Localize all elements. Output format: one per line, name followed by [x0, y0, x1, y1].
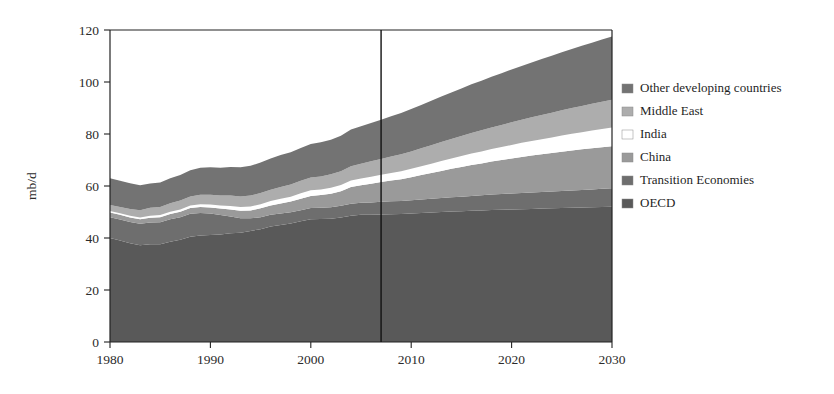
legend-label: Middle East	[640, 103, 704, 118]
y-tick-label: 0	[92, 335, 99, 350]
x-tick-label: 1990	[197, 352, 224, 367]
x-tick-label: 2000	[297, 352, 324, 367]
y-tick-label: 20	[86, 283, 100, 298]
x-tick-label: 2030	[599, 352, 626, 367]
y-axis-title: mb/d	[24, 172, 39, 200]
x-tick-label: 2020	[498, 352, 525, 367]
legend-item-transition-economies: Transition Economies	[622, 172, 754, 187]
legend-label: OECD	[640, 195, 675, 210]
y-axis-title-group: mb/d	[24, 172, 39, 200]
legend-swatch	[622, 84, 633, 93]
x-tick-label: 2010	[398, 352, 425, 367]
legend-swatch	[622, 153, 633, 162]
y-tick-label: 120	[79, 23, 100, 38]
legend-swatch	[622, 176, 633, 185]
legend-swatch	[622, 130, 633, 139]
legend-swatch	[622, 107, 633, 116]
y-tick-label: 80	[86, 127, 100, 142]
legend-item-other-developing-countries: Other developing countries	[622, 80, 782, 95]
oil-demand-stacked-area-chart: 020406080100120 198019902000201020202030…	[0, 0, 834, 394]
y-tick-label: 100	[79, 75, 100, 90]
y-tick-label: 60	[86, 179, 100, 194]
chart-canvas: 020406080100120 198019902000201020202030…	[0, 0, 834, 394]
x-tick-label: 1980	[97, 352, 124, 367]
legend-swatch	[622, 199, 633, 208]
legend-label: China	[640, 149, 671, 164]
legend-label: Transition Economies	[640, 172, 754, 187]
y-tick-label: 40	[86, 231, 100, 246]
legend-label: India	[640, 126, 667, 141]
legend-label: Other developing countries	[640, 80, 782, 95]
